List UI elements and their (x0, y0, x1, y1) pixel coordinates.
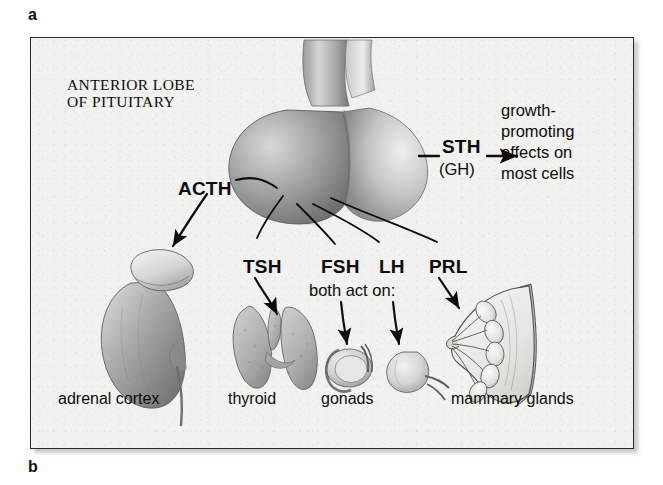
hormone-label-prl: PRL (429, 256, 468, 277)
hormone-label-acth: ACTH (178, 178, 232, 199)
panel-title: ANTERIOR LOBE OF PITUITARY (67, 76, 195, 111)
prl-arrow (439, 278, 459, 308)
pituitary-gland-illustration (229, 40, 428, 224)
organ-label-adrenal-cortex: adrenal cortex (58, 390, 159, 408)
lh-gonad-arrow (393, 302, 399, 344)
hormone-label-sth: STH (442, 136, 481, 157)
hormone-label-gh-alt: (GH) (439, 160, 475, 178)
mammary-gland-illustration (446, 284, 536, 406)
acth-arrow (173, 194, 207, 246)
figure-part-b-letter: b (28, 458, 38, 476)
hormone-label-lh: LH (379, 256, 405, 277)
sth-effects-text: growth- promoting effects on most cells (501, 100, 626, 184)
thyroid-gland-illustration (233, 306, 317, 389)
organ-label-thyroid: thyroid (228, 390, 276, 408)
fsh-gonad-arrow (341, 302, 347, 344)
organ-label-gonads: gonads (321, 390, 374, 408)
testis-illustration (326, 344, 372, 392)
organ-label-mammary-glands: mammary glands (451, 390, 574, 408)
tsh-arrow (255, 278, 277, 314)
pituitary-diagram-panel: ANTERIOR LOBE OF PITUITARY ACTH TSH FSH … (30, 37, 634, 449)
both-act-on-note: both act on: (309, 281, 395, 299)
ovary-illustration (387, 352, 449, 400)
hormone-label-tsh: TSH (243, 256, 282, 277)
figure-part-a-letter: a (28, 6, 37, 24)
hormone-label-fsh: FSH (321, 256, 360, 277)
